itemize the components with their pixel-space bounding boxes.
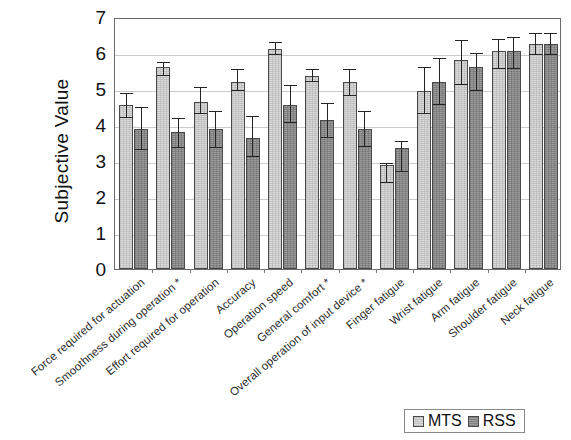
x-axis-tick bbox=[525, 269, 526, 273]
error-bar-mts bbox=[455, 40, 468, 85]
bar-group bbox=[527, 19, 560, 269]
legend-swatch-mts bbox=[413, 416, 424, 427]
x-axis-tick bbox=[152, 269, 153, 273]
x-axis-tick bbox=[488, 269, 489, 273]
bar-mts bbox=[231, 82, 245, 269]
bar-mts bbox=[194, 102, 208, 269]
error-bar-rss bbox=[358, 111, 371, 147]
x-axis-tick bbox=[264, 269, 265, 273]
y-tick-label: 2 bbox=[80, 188, 106, 207]
error-bar-rss bbox=[395, 141, 408, 172]
x-axis-tick bbox=[227, 269, 228, 273]
bar-group bbox=[192, 19, 225, 269]
x-axis-tick bbox=[190, 269, 191, 273]
bar-mts bbox=[454, 60, 468, 269]
bar-group bbox=[229, 19, 262, 269]
error-bar-rss bbox=[470, 53, 483, 91]
error-bar-mts bbox=[343, 69, 356, 96]
bar-mts bbox=[268, 49, 282, 269]
bar-rss bbox=[432, 82, 446, 269]
legend-label: RSS bbox=[483, 412, 516, 430]
bar-mts bbox=[417, 91, 431, 269]
bar-group bbox=[452, 19, 485, 269]
bar-group bbox=[378, 19, 411, 269]
error-bar-rss bbox=[284, 85, 297, 123]
error-bar-mts bbox=[418, 67, 431, 114]
bar-group bbox=[490, 19, 523, 269]
bar-rss bbox=[507, 51, 521, 269]
bar-group bbox=[266, 19, 299, 269]
error-bar-rss bbox=[321, 103, 334, 137]
bar-groups bbox=[115, 19, 560, 269]
error-bar-rss bbox=[209, 111, 222, 149]
bar-mts bbox=[529, 44, 543, 269]
bar-group bbox=[117, 19, 150, 269]
bar-mts bbox=[305, 76, 319, 269]
y-tick-label: 6 bbox=[80, 44, 106, 63]
bar-mts bbox=[156, 67, 170, 269]
error-bar-mts bbox=[194, 87, 207, 114]
x-axis-tick bbox=[301, 269, 302, 273]
x-axis-tick bbox=[413, 269, 414, 273]
bar-group bbox=[154, 19, 187, 269]
y-tick-label: 3 bbox=[80, 152, 106, 171]
y-tick-label: 7 bbox=[80, 8, 106, 27]
y-axis-tick-labels: 01234567 bbox=[78, 0, 106, 300]
error-bar-rss bbox=[246, 116, 259, 157]
subjective-value-bar-chart: Subjective Value 01234567 Force required… bbox=[0, 0, 571, 440]
bar-group bbox=[415, 19, 448, 269]
plot-area bbox=[114, 18, 561, 270]
error-bar-rss bbox=[544, 33, 557, 55]
bar-mts bbox=[119, 105, 133, 269]
x-axis-tick bbox=[450, 269, 451, 273]
error-bar-mts bbox=[120, 93, 133, 118]
bar-group bbox=[303, 19, 336, 269]
error-bar-rss bbox=[507, 37, 520, 69]
error-bar-mts bbox=[492, 39, 505, 70]
bar-rss bbox=[209, 129, 223, 269]
error-bar-rss bbox=[172, 118, 185, 149]
bar-rss bbox=[283, 105, 297, 269]
x-category-label: Overall operation of input device * bbox=[227, 276, 370, 398]
x-axis-tick bbox=[376, 269, 377, 273]
legend-item: RSS bbox=[468, 412, 516, 430]
bar-rss bbox=[469, 67, 483, 269]
bar-rss bbox=[358, 129, 372, 269]
bar-rss bbox=[171, 132, 185, 269]
error-bar-rss bbox=[433, 58, 446, 105]
bar-mts bbox=[492, 51, 506, 269]
error-bar-mts bbox=[529, 33, 542, 55]
y-tick-label: 4 bbox=[80, 116, 106, 135]
x-axis-category-labels: Force required for actuationSmoothness d… bbox=[0, 274, 571, 414]
error-bar-mts bbox=[157, 62, 170, 76]
legend-item: MTS bbox=[413, 412, 462, 430]
error-bar-mts bbox=[306, 69, 319, 82]
bar-group bbox=[341, 19, 374, 269]
error-bar-mts bbox=[231, 69, 244, 91]
error-bar-mts bbox=[269, 42, 282, 55]
chart-legend: MTSRSS bbox=[404, 409, 525, 433]
bar-rss bbox=[320, 120, 334, 269]
legend-swatch-rss bbox=[468, 416, 479, 427]
bar-mts bbox=[343, 82, 357, 269]
x-axis-tick bbox=[339, 269, 340, 273]
y-tick-label: 1 bbox=[80, 224, 106, 243]
error-bar-mts bbox=[380, 163, 393, 183]
y-tick-label: 5 bbox=[80, 80, 106, 99]
legend-label: MTS bbox=[428, 412, 462, 430]
y-axis-title: Subjective Value bbox=[51, 21, 73, 281]
bar-rss bbox=[544, 44, 558, 269]
error-bar-rss bbox=[135, 107, 148, 150]
